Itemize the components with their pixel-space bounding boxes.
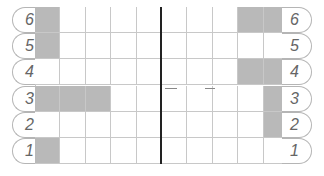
grid-cell[interactable] (162, 59, 187, 85)
board-row-5: 55 (0, 33, 324, 59)
row-label-right: 1 (282, 138, 312, 164)
grid-cell[interactable] (86, 86, 111, 112)
row-label-right: 4 (282, 59, 312, 85)
grid-cell[interactable] (86, 59, 111, 85)
grid-cell[interactable] (137, 86, 162, 112)
grid-cell[interactable] (35, 112, 60, 138)
grid-cell[interactable] (86, 7, 111, 33)
grid-cell[interactable] (60, 138, 85, 164)
grid-cell[interactable] (35, 7, 60, 33)
grid-cell[interactable] (137, 112, 162, 138)
board-row-4: 44 (0, 59, 324, 85)
grid-cell[interactable] (213, 112, 238, 138)
grid-cell[interactable] (111, 7, 136, 33)
grid-cell[interactable] (35, 59, 60, 85)
center-divider (160, 7, 162, 164)
grid-cell[interactable] (238, 7, 263, 33)
grid-cell[interactable] (86, 112, 111, 138)
grid-cell[interactable] (111, 33, 136, 59)
grid-cell[interactable] (111, 112, 136, 138)
grid-cell[interactable] (86, 33, 111, 59)
grid-cell[interactable] (213, 59, 238, 85)
grid-cell[interactable] (238, 86, 263, 112)
grid-cell[interactable] (213, 7, 238, 33)
row-label-right: 2 (282, 112, 312, 138)
grid-cell[interactable] (213, 86, 238, 112)
board-row-1: 11 (0, 138, 324, 164)
board-row-3: 33 (0, 86, 324, 112)
grid-cell[interactable] (137, 138, 162, 164)
grid-cell[interactable] (60, 33, 85, 59)
grid-cell[interactable] (86, 138, 111, 164)
grid-cell[interactable] (137, 7, 162, 33)
grid-cell[interactable] (187, 86, 212, 112)
pencil-mark (165, 88, 177, 89)
grid-cell[interactable] (60, 7, 85, 33)
grid-cell[interactable] (187, 7, 212, 33)
grid-cell[interactable] (35, 33, 60, 59)
grid-cell[interactable] (111, 86, 136, 112)
grid-cell[interactable] (60, 112, 85, 138)
grid-cell[interactable] (35, 138, 60, 164)
grid-cell[interactable] (187, 33, 212, 59)
grid-cell[interactable] (238, 138, 263, 164)
grid-board: 665544332211 (0, 0, 324, 176)
grid-cell[interactable] (111, 138, 136, 164)
grid-cell[interactable] (238, 59, 263, 85)
grid-cell[interactable] (35, 86, 60, 112)
grid-cell[interactable] (137, 33, 162, 59)
grid-cell[interactable] (213, 33, 238, 59)
grid-cell[interactable] (60, 59, 85, 85)
grid-cell[interactable] (238, 112, 263, 138)
board-row-2: 22 (0, 112, 324, 138)
row-label-right: 6 (282, 7, 312, 33)
grid-cell[interactable] (187, 59, 212, 85)
grid-cell[interactable] (238, 33, 263, 59)
row-label-right: 5 (282, 33, 312, 59)
grid-cell[interactable] (162, 7, 187, 33)
row-label-right: 3 (282, 86, 312, 112)
grid-cell[interactable] (213, 138, 238, 164)
grid-cell[interactable] (187, 112, 212, 138)
grid-cell[interactable] (137, 59, 162, 85)
grid-cell[interactable] (187, 138, 212, 164)
grid-cell[interactable] (162, 33, 187, 59)
board-row-6: 66 (0, 7, 324, 33)
pencil-mark (205, 88, 215, 89)
grid-cell[interactable] (162, 112, 187, 138)
grid-cell[interactable] (162, 138, 187, 164)
grid-cell[interactable] (60, 86, 85, 112)
grid-cell[interactable] (111, 59, 136, 85)
grid-cell[interactable] (162, 86, 187, 112)
